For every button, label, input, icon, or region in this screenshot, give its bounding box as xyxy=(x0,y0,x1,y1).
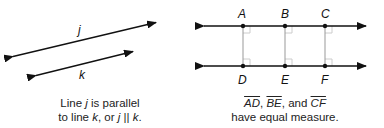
label-j: j xyxy=(76,23,81,37)
point-F xyxy=(323,64,327,68)
point-D xyxy=(241,64,245,68)
caption-text: . xyxy=(138,111,141,123)
segment-CF-label: CF xyxy=(311,97,326,109)
right-caption-line1: AD, BE, and CF xyxy=(200,96,370,110)
left-caption-line2: to line k, or j || k. xyxy=(20,110,180,124)
parallel-symbol: || xyxy=(120,111,132,123)
label-k: k xyxy=(79,68,86,82)
left-caption-line1: Line j is parallel xyxy=(20,96,180,110)
label-D: D xyxy=(238,73,247,87)
caption-text: , or xyxy=(98,111,118,123)
label-E: E xyxy=(281,73,290,87)
point-B xyxy=(283,24,287,28)
left-caption: Line j is parallel to line k, or j || k. xyxy=(20,96,180,124)
right-figure: A B C D E F xyxy=(204,7,366,87)
left-figure: j k xyxy=(13,23,156,83)
label-F: F xyxy=(321,73,329,87)
line-j xyxy=(13,23,156,57)
right-caption: AD, BE, and CF have equal measure. xyxy=(200,96,370,124)
caption-text: Line xyxy=(60,97,85,109)
caption-text: , and xyxy=(282,97,311,109)
right-caption-line2: have equal measure. xyxy=(200,110,370,124)
right-angle-marks xyxy=(243,26,332,66)
points xyxy=(241,24,327,68)
label-A: A xyxy=(237,7,246,21)
point-E xyxy=(283,64,287,68)
caption-text: to line xyxy=(58,111,92,123)
point-A xyxy=(241,24,245,28)
segment-AD-label: AD xyxy=(244,97,260,109)
caption-text: is parallel xyxy=(88,97,140,109)
point-C xyxy=(323,24,327,28)
segment-BE-label: BE xyxy=(266,97,281,109)
label-B: B xyxy=(281,7,289,21)
label-C: C xyxy=(321,7,330,21)
